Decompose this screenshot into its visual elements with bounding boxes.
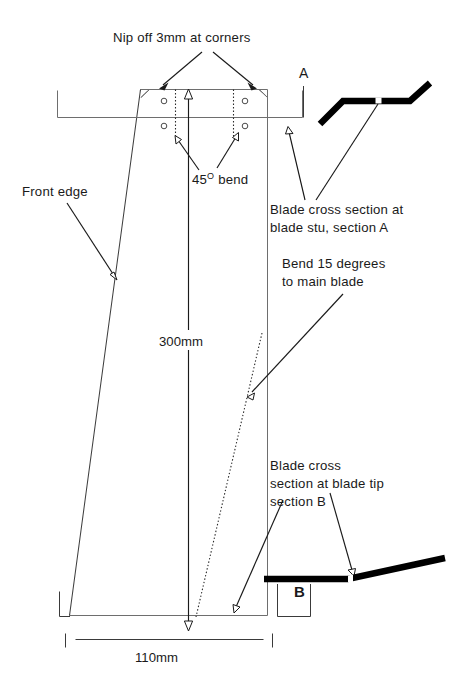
blade-body-path bbox=[70, 90, 268, 616]
bend-45-value: 45 bbox=[192, 172, 207, 187]
cross-section-a-leader-left bbox=[289, 132, 305, 200]
width-dimension: 110mm bbox=[66, 634, 273, 666]
bottom-left-extension bbox=[60, 592, 71, 617]
corner-fillet-right bbox=[259, 90, 268, 98]
cross-section-b-callout: Blade cross section at blade tip section… bbox=[233, 458, 384, 613]
cross-section-a-profile bbox=[320, 83, 430, 124]
cross-section-b-leader-left bbox=[236, 500, 283, 607]
bend-15-dotted-line bbox=[196, 333, 262, 617]
bend-45-word: bend bbox=[214, 172, 248, 187]
bend-15-line2: to main blade bbox=[282, 274, 364, 289]
cross-section-a-line2: blade stu, section A bbox=[270, 220, 388, 235]
front-edge-callout: Front edge bbox=[22, 184, 117, 280]
main-blade-outline bbox=[70, 90, 268, 616]
nip-leader-right bbox=[213, 52, 253, 85]
height-dimension: 300mm bbox=[152, 89, 226, 631]
cross-section-a-midpoint-marker bbox=[376, 98, 381, 103]
section-a-marker-group: A bbox=[299, 65, 309, 118]
bend-45-label: 45O bend bbox=[192, 171, 248, 187]
bend-45-lines bbox=[176, 90, 234, 137]
section-a-label: A bbox=[299, 65, 309, 81]
height-dimension-label: 300mm bbox=[159, 334, 203, 349]
bend-45-degree-symbol: O bbox=[207, 171, 214, 181]
technical-drawing-canvas: 300mm 110mm Nip off 3mm at corners A 45O… bbox=[0, 0, 466, 688]
cross-section-b-leader-right bbox=[330, 493, 352, 570]
hole-bottom-left bbox=[161, 123, 167, 129]
blade-front-edge-line bbox=[70, 90, 141, 616]
cross-section-b-line3: section B bbox=[270, 494, 326, 509]
front-edge-label: Front edge bbox=[22, 184, 88, 199]
bend-15-leader bbox=[252, 294, 343, 392]
bend-15-line1: Bend 15 degrees bbox=[282, 256, 386, 271]
width-dimension-label: 110mm bbox=[135, 650, 178, 665]
corner-fillet-left bbox=[141, 90, 150, 98]
stub-reference-line bbox=[58, 91, 303, 118]
height-arrow-top bbox=[184, 89, 192, 99]
hole-bottom-right bbox=[242, 123, 248, 129]
nip-leader-left bbox=[163, 52, 202, 85]
cross-section-a-arrow-left bbox=[286, 127, 294, 135]
nip-note-label: Nip off 3mm at corners bbox=[113, 30, 251, 45]
cross-section-b-line1: Blade cross bbox=[270, 458, 341, 473]
nip-note-group: Nip off 3mm at corners bbox=[113, 30, 257, 91]
section-b-label: B bbox=[294, 583, 305, 600]
section-b-marker-group: B bbox=[278, 583, 311, 617]
cross-section-a-callout: Blade cross section at blade stu, sectio… bbox=[270, 104, 404, 235]
bend-45-leader-right bbox=[217, 137, 236, 168]
mounting-holes bbox=[161, 98, 248, 129]
cross-section-b-line2: section at blade tip bbox=[270, 476, 384, 491]
blade-cross-section-a bbox=[320, 83, 430, 124]
bend-45-callout: 45O bend bbox=[175, 133, 248, 188]
front-edge-leader bbox=[67, 203, 113, 274]
height-arrow-bottom bbox=[184, 621, 192, 631]
bend-45-arrow-right bbox=[233, 133, 239, 142]
cross-section-a-line1: Blade cross section at bbox=[270, 202, 404, 217]
hole-top-right bbox=[242, 98, 248, 104]
cross-section-b-arrow-left bbox=[233, 605, 240, 614]
bend-15-arrow bbox=[247, 393, 255, 400]
cross-section-b-bend-marker bbox=[348, 575, 353, 583]
hole-top-left bbox=[161, 98, 167, 104]
bend-15-line bbox=[196, 333, 262, 617]
